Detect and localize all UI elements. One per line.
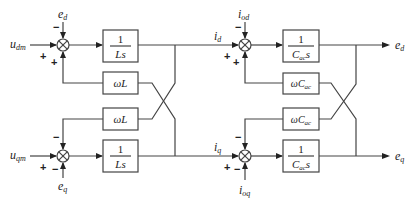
block-coupling-C-bottom: ωCac — [283, 108, 319, 130]
arrow-icon — [60, 143, 66, 150]
arrow-icon — [382, 42, 390, 48]
arrow-icon — [232, 153, 239, 159]
arrow-icon — [242, 32, 248, 39]
label-e-d-in: ed — [58, 7, 68, 22]
wire-coupling-L-bottom-to-sj2 — [63, 119, 103, 149]
sign-sj3-top: − — [235, 21, 241, 33]
label-i-d: id — [214, 29, 222, 44]
svg-text:ωL: ωL — [114, 77, 128, 89]
label-u-dm: udm — [10, 37, 26, 52]
sign-sj1-bottom: + — [51, 56, 57, 68]
block-capacitor-d: 1 Cacs — [283, 30, 319, 62]
arrow-icon — [382, 153, 390, 159]
summing-junction-1 — [57, 39, 69, 51]
wire-coupling-C-bottom-to-sj4 — [245, 119, 283, 149]
block-inductor-q: 1 Ls — [103, 140, 138, 172]
arrow-icon — [242, 143, 248, 150]
block-coupling-L-bottom: ωL — [103, 108, 138, 130]
label-i-q: iq — [214, 140, 221, 155]
svg-text:ωL: ωL — [114, 113, 128, 125]
wire-coupling-C-top-to-sj3 — [245, 52, 283, 83]
sign-sj4-bottom: − — [234, 163, 240, 175]
arrow-icon — [60, 32, 66, 39]
arrow-icon — [276, 153, 283, 159]
summing-junction-4 — [239, 150, 251, 162]
sign-sj2-bottom: − — [52, 163, 58, 175]
arrow-icon — [60, 162, 66, 169]
svg-text:1: 1 — [118, 143, 124, 155]
svg-text:Ls: Ls — [114, 158, 125, 170]
sign-sj1-top: − — [53, 21, 59, 33]
sign-sj2-top: − — [53, 131, 59, 143]
label-e-q-in: eq — [58, 179, 67, 194]
sign-sj4-left: + — [224, 161, 230, 173]
label-i-od: iod — [238, 7, 250, 22]
arrow-icon — [96, 42, 103, 48]
arrow-icon — [96, 153, 103, 159]
block-coupling-L-top: ωL — [103, 72, 138, 94]
wire-cross-id-to-wL-bottom — [138, 45, 175, 119]
arrow-icon — [50, 42, 57, 48]
sign-sj3-bottom: + — [233, 56, 239, 68]
sign-sj2-left: + — [40, 161, 46, 173]
arrow-icon — [60, 51, 66, 58]
sign-sj3-left: + — [224, 50, 230, 62]
svg-text:1: 1 — [298, 143, 304, 155]
wire-cross-ed-to-wC-bottom — [319, 45, 356, 119]
wire-coupling-L-top-to-sj1 — [63, 52, 103, 83]
summing-junction-2 — [57, 150, 69, 162]
svg-text:1: 1 — [298, 33, 304, 45]
block-inductor-d: 1 Ls — [103, 30, 138, 62]
label-i-oq: ioq — [239, 183, 250, 198]
block-capacitor-q: 1 Cacs — [283, 140, 319, 172]
svg-text:1: 1 — [118, 33, 124, 45]
dq-block-diagram: udm ed − + + 1 Ls id ωL ωL uq — [0, 0, 419, 202]
block-coupling-C-top: ωCac — [283, 73, 319, 94]
label-u-qm: uqm — [10, 148, 26, 163]
label-e-d-out: ed — [395, 38, 405, 53]
svg-text:Ls: Ls — [114, 48, 125, 60]
arrow-icon — [50, 153, 57, 159]
arrow-icon — [242, 51, 248, 58]
label-e-q-out: eq — [395, 149, 404, 164]
sign-sj4-top: − — [235, 131, 241, 143]
arrow-icon — [276, 42, 283, 48]
summing-junction-3 — [239, 39, 251, 51]
arrow-icon — [242, 162, 248, 169]
arrow-icon — [232, 42, 239, 48]
sign-sj1-left: + — [40, 50, 46, 62]
